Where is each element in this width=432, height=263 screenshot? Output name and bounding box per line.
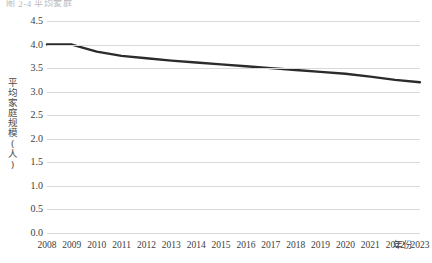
x-axis-title: 年份 — [393, 239, 413, 251]
gridline — [47, 209, 420, 210]
gridline — [47, 162, 420, 163]
x-axis-tick-label: 2016 — [234, 239, 258, 251]
y-axis-title: 平均家庭规模(人) — [4, 78, 20, 208]
gridline — [47, 21, 420, 22]
gridline — [47, 92, 420, 93]
gridline — [47, 186, 420, 187]
gridline — [47, 68, 420, 69]
gridline — [47, 45, 420, 46]
y-axis-tick-label: 2.5 — [22, 110, 43, 120]
x-axis-tick-label: 2020 — [333, 239, 357, 251]
x-axis-tick-label: 2012 — [134, 239, 158, 251]
x-axis-tick-labels: 2008200920102011201220132014201520162017… — [47, 239, 420, 253]
y-axis-tick-label: 1.5 — [22, 157, 43, 167]
plot-area — [47, 21, 420, 233]
x-axis-tick-label: 2013 — [159, 239, 183, 251]
series-line-average-household-size — [47, 21, 420, 233]
x-axis-tick-label: 2011 — [110, 239, 134, 251]
gridline — [47, 115, 420, 116]
x-axis-tick-label: 2008 — [35, 239, 59, 251]
y-axis-tick-label: 3.5 — [22, 63, 43, 73]
x-axis-tick-label: 2014 — [184, 239, 208, 251]
x-axis-tick-label: 2009 — [60, 239, 84, 251]
x-axis-tick-label: 2018 — [284, 239, 308, 251]
y-axis-tick-label: 2.0 — [22, 134, 43, 144]
x-axis-tick-label: 2017 — [259, 239, 283, 251]
x-axis-tick-label: 2019 — [309, 239, 333, 251]
gridline — [47, 233, 420, 234]
y-axis-tick-label: 4.0 — [22, 40, 43, 50]
gridline — [47, 139, 420, 140]
y-axis-tick-label: 1.0 — [22, 181, 43, 191]
y-axis-tick-label: 4.5 — [22, 16, 43, 26]
y-axis-tick-label: 0.0 — [22, 228, 43, 238]
y-axis-tick-labels: 4.54.03.53.02.52.01.51.00.50.0 — [22, 0, 43, 263]
x-axis-tick-label: 2010 — [85, 239, 109, 251]
y-axis-tick-label: 3.0 — [22, 87, 43, 97]
y-axis-tick-label: 0.5 — [22, 204, 43, 214]
x-axis-tick-label: 2021 — [358, 239, 382, 251]
x-axis-tick-label: 2015 — [209, 239, 233, 251]
